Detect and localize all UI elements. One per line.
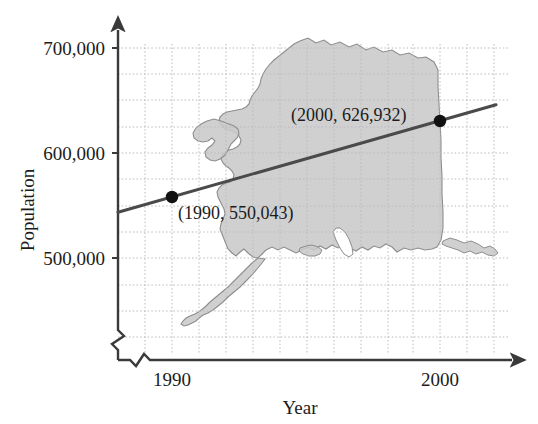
alaska-peninsula-shape (181, 258, 265, 326)
y-tick-label-500000: 500,000 (43, 248, 105, 269)
annotation-point-1990: (1990, 550,043) (178, 203, 294, 224)
x-axis-line (118, 354, 512, 366)
chart-page: 700,000 600,000 500,000 1990 2000 Popula… (0, 0, 538, 424)
x-tick-label-1990: 1990 (153, 369, 191, 390)
annotation-point-2000: (2000, 626,932) (291, 105, 407, 126)
population-line-chart: 700,000 600,000 500,000 1990 2000 Popula… (0, 0, 538, 424)
y-axis-title: Population (17, 168, 38, 251)
data-point-2000[interactable] (434, 115, 446, 127)
y-tick-label-700000: 700,000 (43, 38, 105, 59)
x-tick-label-2000: 2000 (421, 369, 459, 390)
y-tick-label-600000: 600,000 (43, 143, 105, 164)
southeast-panhandle-shape (442, 238, 498, 256)
alaska-mainland-shape (217, 38, 443, 258)
data-point-1990[interactable] (166, 191, 178, 203)
x-axis-title: Year (282, 397, 318, 418)
